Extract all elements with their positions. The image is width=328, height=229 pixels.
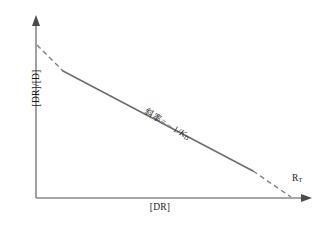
x-intercept-label-subscript: T bbox=[299, 176, 303, 183]
x-axis-label: [DR] bbox=[150, 203, 170, 213]
y-axis-arrowhead bbox=[32, 15, 40, 26]
y-axis-label: [DR]/[D] bbox=[6, 51, 16, 88]
y-axis-label-text: [DR]/[D] bbox=[32, 70, 42, 107]
x-intercept-label: RT bbox=[292, 174, 303, 184]
binding-line-dashed-left bbox=[37, 45, 63, 71]
figure-canvas: [DR]/[D] [DR] RT 斜率= − 1/KD bbox=[0, 0, 328, 229]
x-axis-arrowhead bbox=[301, 194, 312, 202]
binding-line-dashed-right bbox=[253, 171, 291, 197]
